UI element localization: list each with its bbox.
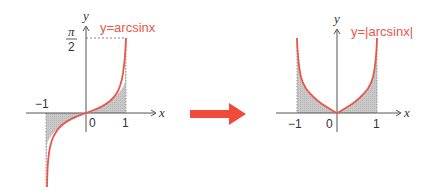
right-tick-neg1: −1 bbox=[288, 117, 302, 131]
right-tick-1: 1 bbox=[373, 117, 380, 131]
transform-arrow bbox=[190, 103, 246, 125]
diagram-canvas: y x −1 0 1 π 2 y=arcsinx y x −1 0 1 y=|a… bbox=[0, 0, 447, 190]
right-curve-label: y=|arcsinx| bbox=[351, 24, 413, 39]
left-graph: y x −1 0 1 π 2 y=arcsinx bbox=[26, 8, 165, 188]
right-x-label: x bbox=[403, 105, 410, 120]
right-graph: y x −1 0 1 y=|arcsinx| bbox=[276, 11, 413, 132]
pi-denominator: 2 bbox=[68, 40, 75, 54]
left-y-label: y bbox=[81, 8, 89, 23]
left-x-label: x bbox=[158, 105, 165, 120]
left-curve-label: y=arcsinx bbox=[100, 20, 156, 35]
left-tick-1: 1 bbox=[122, 116, 129, 130]
left-tick-neg1: −1 bbox=[35, 97, 49, 111]
left-tick-0: 0 bbox=[89, 116, 96, 130]
pi-numerator: π bbox=[68, 24, 75, 39]
right-y-label: y bbox=[332, 11, 340, 26]
right-tick-0: 0 bbox=[326, 117, 333, 131]
